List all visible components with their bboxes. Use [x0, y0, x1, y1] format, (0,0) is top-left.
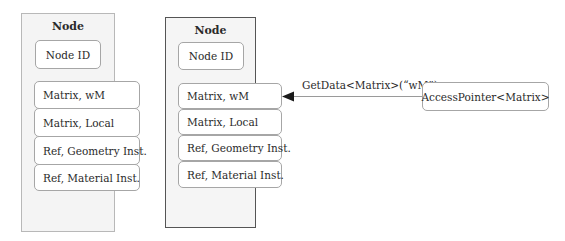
- node-title: Node: [166, 24, 255, 37]
- field-matrix-local: Matrix, Local: [34, 108, 140, 137]
- field-ref-geometry: Ref, Geometry Inst.: [34, 136, 140, 165]
- connector-line: [292, 96, 423, 97]
- node-id-box: Node ID: [35, 40, 101, 69]
- field-label: Ref, Geometry Inst.: [187, 142, 291, 154]
- field-matrix-wm: Matrix, wM: [34, 81, 140, 109]
- node-id-label: Node ID: [189, 50, 233, 62]
- field-label: Matrix, Local: [187, 116, 258, 128]
- node-title: Node: [22, 20, 114, 33]
- field-label: Ref, Material Inst.: [43, 172, 140, 184]
- access-pointer-box: AccessPointer<Matrix>: [422, 82, 549, 111]
- field-label: Ref, Geometry Inst.: [43, 145, 147, 157]
- field-label: Matrix, wM: [187, 90, 249, 102]
- node-id-box: Node ID: [178, 42, 244, 70]
- node-id-label: Node ID: [46, 49, 90, 61]
- field-matrix-wm: Matrix, wM: [178, 83, 282, 109]
- arrowhead-icon: [282, 91, 294, 102]
- field-label: Matrix, Local: [43, 117, 114, 129]
- field-ref-material: Ref, Material Inst.: [178, 161, 282, 188]
- field-matrix-local: Matrix, Local: [178, 109, 282, 135]
- field-label: Matrix, wM: [43, 89, 105, 101]
- field-ref-material: Ref, Material Inst.: [34, 164, 140, 191]
- access-pointer-label: AccessPointer<Matrix>: [422, 91, 550, 103]
- field-label: Ref, Material Inst.: [187, 169, 284, 181]
- field-ref-geometry: Ref, Geometry Inst.: [178, 135, 282, 161]
- connector-label: GetData<Matrix>(“wM”): [302, 79, 438, 91]
